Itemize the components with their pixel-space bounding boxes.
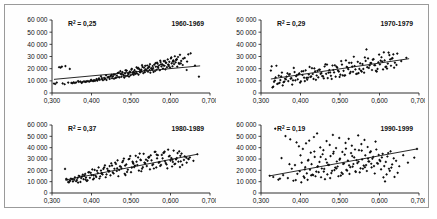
- data-point: [364, 56, 367, 59]
- data-point: [333, 71, 336, 74]
- data-point: [394, 61, 397, 64]
- data-point: [334, 75, 337, 78]
- data-point: [360, 149, 363, 152]
- data-point: [294, 79, 297, 82]
- data-point: [363, 71, 366, 74]
- data-point: [161, 157, 164, 160]
- data-point: [348, 61, 351, 64]
- data-point: [100, 169, 103, 172]
- panel-period-label: 1990-1999: [380, 125, 413, 132]
- data-point: [365, 48, 368, 51]
- data-point: [153, 167, 156, 170]
- data-point: [370, 166, 373, 169]
- y-tick-label: 10 000: [27, 178, 48, 185]
- data-point: [364, 60, 367, 63]
- y-tick-label: 0: [44, 89, 48, 96]
- data-point: [137, 156, 140, 159]
- data-point: [294, 179, 297, 182]
- data-point: [155, 166, 158, 169]
- data-point: [272, 176, 275, 179]
- data-point: [289, 138, 292, 141]
- data-point: [348, 173, 351, 176]
- data-point: [371, 69, 374, 72]
- data-point: [313, 156, 316, 159]
- data-point: [309, 151, 312, 154]
- scatter-plot: 010 00020 00030 00040 00050 00060 0000,3…: [220, 113, 425, 208]
- data-point: [385, 173, 388, 176]
- data-point: [391, 163, 394, 166]
- data-point: [179, 154, 182, 157]
- data-point: [185, 69, 188, 72]
- data-point: [390, 64, 393, 67]
- y-tick-label: 40 000: [236, 41, 257, 48]
- data-point: [324, 158, 327, 161]
- data-point: [296, 78, 299, 81]
- data-point: [299, 154, 302, 157]
- data-point: [375, 148, 378, 151]
- data-point: [178, 150, 181, 153]
- panel-period-label: 1970-1979: [380, 20, 413, 27]
- data-point: [383, 59, 386, 62]
- data-point: [149, 168, 152, 171]
- trend-line: [271, 59, 409, 79]
- data-point: [340, 60, 343, 63]
- data-point: [171, 65, 174, 68]
- data-point: [384, 161, 387, 164]
- data-point: [68, 68, 71, 71]
- data-point: [120, 75, 123, 78]
- data-point: [329, 71, 332, 74]
- data-point: [322, 149, 325, 152]
- y-tick-label: 0: [253, 189, 257, 196]
- x-tick-label: 0,300: [253, 97, 270, 104]
- data-point: [359, 62, 362, 65]
- data-point: [110, 162, 113, 165]
- data-point: [392, 157, 395, 160]
- data-point: [171, 165, 174, 168]
- data-point: [300, 70, 303, 73]
- scatter-panel-1990-1999: 010 00020 00030 00040 00050 00060 0000,3…: [220, 113, 425, 208]
- data-point: [339, 174, 342, 177]
- x-tick-label: 0,300: [253, 197, 270, 204]
- data-point: [339, 73, 342, 76]
- data-point: [179, 160, 182, 163]
- data-point: [350, 61, 353, 64]
- data-point: [108, 165, 111, 168]
- y-tick-label: 40 000: [27, 41, 48, 48]
- data-point: [180, 152, 183, 155]
- data-point: [389, 150, 392, 153]
- data-point: [295, 141, 298, 144]
- data-point: [354, 148, 357, 151]
- y-tick-label: 60 000: [236, 121, 257, 128]
- data-point: [382, 51, 385, 54]
- data-point: [324, 178, 327, 181]
- data-point: [320, 176, 323, 179]
- data-point: [77, 181, 80, 184]
- data-point: [177, 56, 180, 59]
- y-tick-label: 0: [44, 189, 48, 196]
- data-point: [126, 171, 129, 174]
- data-point: [308, 139, 311, 142]
- data-point: [380, 168, 383, 171]
- data-point: [306, 179, 309, 182]
- data-point: [343, 153, 346, 156]
- trend-line: [54, 66, 200, 80]
- data-point: [187, 53, 190, 56]
- data-point: [351, 144, 354, 147]
- data-point: [141, 64, 144, 67]
- data-point: [347, 137, 350, 140]
- data-point: [326, 161, 329, 164]
- data-point: [341, 63, 344, 66]
- data-point: [293, 71, 296, 74]
- data-point: [352, 70, 355, 73]
- data-point: [93, 169, 96, 172]
- data-point: [304, 166, 307, 169]
- scatter-panel-1970-1979: 010 00020 00030 00040 00050 00060 0000,3…: [220, 8, 425, 108]
- data-point: [362, 167, 365, 170]
- data-point: [396, 52, 399, 55]
- data-point: [323, 65, 326, 68]
- data-point: [315, 74, 318, 77]
- data-point: [104, 176, 107, 179]
- data-point: [303, 80, 306, 83]
- panel-period-label: 1980-1989: [171, 125, 204, 132]
- data-point: [393, 176, 396, 179]
